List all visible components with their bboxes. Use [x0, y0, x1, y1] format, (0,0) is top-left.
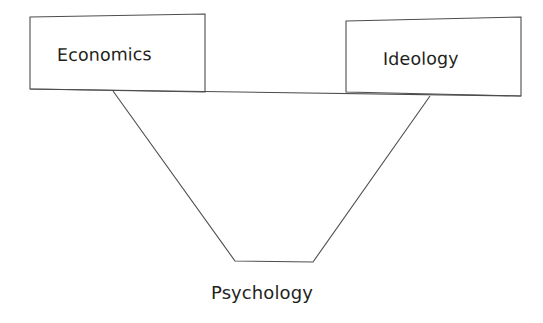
concept-diagram: Economics Ideology Psychology — [0, 0, 543, 323]
connector-funnel-to-psychology — [113, 91, 430, 262]
node-label-ideology: Ideology — [383, 50, 459, 68]
node-label-economics: Economics — [57, 46, 152, 64]
node-label-psychology: Psychology — [211, 284, 313, 302]
